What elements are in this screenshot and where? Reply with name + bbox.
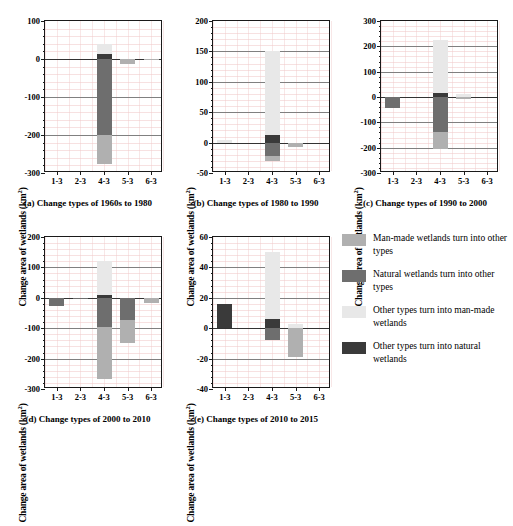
x-tick — [151, 171, 152, 175]
y-tick-minor — [379, 143, 381, 144]
y-tick-minor — [43, 273, 45, 274]
legend-item-other_to_natural: Other types turn into natural wetlands — [342, 340, 512, 365]
y-tick — [41, 135, 45, 136]
minor-gridline — [213, 353, 329, 354]
y-tick-minor — [211, 249, 213, 250]
y-tick-label: 300 — [363, 16, 376, 26]
minor-gridline — [213, 161, 329, 162]
y-tick-minor — [379, 102, 381, 103]
x-tick-label: 2-3 — [75, 176, 86, 186]
y-tick-label: 0 — [36, 293, 40, 303]
minor-gridline-v — [237, 237, 238, 387]
y-tick-minor — [211, 273, 213, 274]
y-tick — [209, 21, 213, 22]
x-tick-label: 4-3 — [98, 392, 109, 402]
y-tick — [41, 97, 45, 98]
y-tick-minor — [43, 36, 45, 37]
x-tick-label: 4-3 — [266, 176, 277, 186]
y-tick-minor — [43, 340, 45, 341]
x-tick-label: 5-3 — [122, 392, 133, 402]
panel-caption-d: (d) Change types of 2000 to 2010 — [8, 414, 168, 424]
y-tick-label: 200 — [363, 41, 376, 51]
y-tick — [41, 328, 45, 329]
y-tick-minor — [211, 33, 213, 34]
y-tick-minor — [211, 286, 213, 287]
y-tick-minor — [211, 304, 213, 305]
minor-gridline — [45, 255, 161, 256]
y-tick-minor — [379, 107, 381, 108]
x-tick-label: 4-3 — [266, 392, 277, 402]
y-tick-minor — [211, 118, 213, 119]
bar-segment — [433, 97, 448, 132]
y-tick-minor — [211, 76, 213, 77]
bar-segment — [97, 59, 112, 135]
y-tick-label: 0 — [204, 138, 208, 148]
y-tick — [209, 112, 213, 113]
y-tick-minor — [379, 51, 381, 52]
y-tick-minor — [379, 92, 381, 93]
y-tick-minor — [43, 82, 45, 83]
x-tick — [464, 171, 465, 175]
y-tick — [209, 237, 213, 238]
minor-gridline-v — [319, 237, 320, 387]
legend-item-natural_to_other: Natural wetlands turn into other types — [342, 268, 512, 293]
y-tick-minor — [379, 127, 381, 128]
minor-gridline-v — [45, 237, 46, 387]
y-tick-label: 200 — [195, 16, 208, 26]
minor-gridline — [45, 36, 161, 37]
panel-caption-a: (a) Change types of 1960s to 1980 — [8, 198, 168, 208]
minor-gridline-v — [92, 21, 93, 171]
minor-gridline-v — [57, 21, 58, 171]
y-tick — [209, 389, 213, 390]
y-tick-minor — [43, 322, 45, 323]
bar-segment — [217, 140, 232, 143]
y-tick-label: -200 — [24, 130, 40, 140]
x-tick-label: 5-3 — [290, 176, 301, 186]
x-tick — [393, 171, 394, 175]
y-tick-label: 100 — [363, 67, 376, 77]
y-tick-minor — [43, 158, 45, 159]
minor-gridline-v — [163, 21, 164, 171]
minor-gridline — [45, 249, 161, 250]
y-tick-minor — [211, 27, 213, 28]
minor-gridline-v — [116, 21, 117, 171]
minor-gridline — [213, 243, 329, 244]
bar-segment — [288, 143, 303, 147]
y-tick-label: 200 — [27, 232, 40, 242]
bar-segment — [97, 327, 112, 380]
y-tick — [209, 173, 213, 174]
y-tick — [209, 267, 213, 268]
legend-item-manmade_to_other: Man-made wetlands turn into other types — [342, 232, 512, 257]
y-tick-minor — [211, 261, 213, 262]
chart-panel-e: Change area of wetlands (km2)-40-2002040… — [176, 224, 336, 426]
y-tick-minor — [379, 158, 381, 159]
minor-gridline — [213, 27, 329, 28]
y-tick-label: -20 — [197, 354, 208, 364]
y-tick-minor — [43, 243, 45, 244]
bar-segment — [49, 298, 64, 307]
x-tick-label: 1-3 — [51, 176, 62, 186]
minor-gridline-v — [139, 21, 140, 171]
y-tick-minor — [211, 88, 213, 89]
y-tick-minor — [43, 371, 45, 372]
y-tick — [41, 21, 45, 22]
minor-gridline — [45, 383, 161, 384]
bar-segment — [265, 135, 280, 143]
minor-gridline-v — [296, 237, 297, 387]
y-tick — [377, 46, 381, 47]
x-tick — [104, 171, 105, 175]
y-tick-minor — [211, 45, 213, 46]
y-tick — [377, 72, 381, 73]
y-tick-minor — [211, 334, 213, 335]
bar-segment — [217, 304, 232, 328]
y-tick-minor — [211, 377, 213, 378]
y-tick-label: 150 — [195, 46, 208, 56]
y-tick-label: -200 — [360, 143, 376, 153]
y-tick-minor — [211, 124, 213, 125]
y-tick-minor — [211, 280, 213, 281]
y-tick-minor — [43, 365, 45, 366]
minor-gridline — [381, 163, 497, 164]
x-tick — [225, 387, 226, 391]
bar-segment — [97, 298, 112, 327]
bar-segment — [73, 298, 88, 300]
